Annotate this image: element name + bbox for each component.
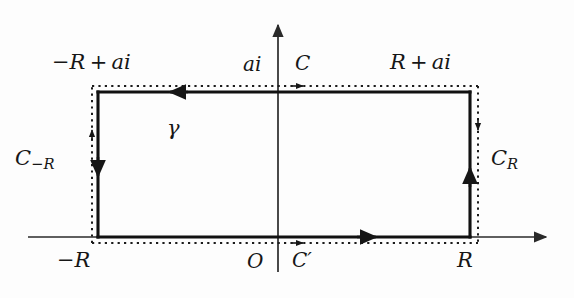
label-right-side-base: C: [491, 146, 507, 170]
dotted-contour-group: [92, 86, 478, 243]
label-bottom-left-minus: −: [57, 248, 75, 272]
label-top-left-plus: +: [90, 50, 108, 74]
label-origin: O: [247, 251, 263, 271]
label-bottom-left-r: R: [75, 248, 91, 272]
label-contour-c: C: [295, 53, 310, 73]
label-top-left-minus: −: [52, 50, 70, 74]
solid-arrowhead-group: [98, 92, 470, 237]
dotted-arrowhead-group: [92, 86, 478, 243]
label-left-side-sub-minus: −: [31, 155, 43, 172]
label-left-side-contour: C−R: [15, 148, 54, 171]
label-bottom-right-vertex: R: [457, 250, 473, 271]
label-top-left-vertex: −R + ai: [52, 52, 131, 73]
label-top-right-r: R: [390, 50, 406, 74]
label-top-right-vertex: R + ai: [390, 52, 451, 73]
solid-contour-group: [98, 92, 470, 237]
label-left-side-base: C: [15, 146, 31, 170]
label-top-left-ai: ai: [111, 50, 130, 74]
label-contour-c-prime: C′: [292, 250, 312, 270]
label-gamma-curve: γ: [167, 118, 180, 139]
label-right-side-sub-r: R: [507, 155, 518, 172]
label-left-side-sub-r: R: [43, 155, 54, 172]
label-right-side-contour: CR: [491, 148, 518, 171]
label-ai-axis-point: ai: [243, 54, 261, 74]
label-top-left-r: R: [70, 50, 86, 74]
contour-diagram-figure: −R + ai R + ai ai C O C′ −R R C−R CR γ: [0, 0, 574, 298]
label-top-right-plus: +: [410, 50, 428, 74]
label-top-right-ai: ai: [432, 50, 451, 74]
label-bottom-left-vertex: −R: [57, 250, 90, 271]
